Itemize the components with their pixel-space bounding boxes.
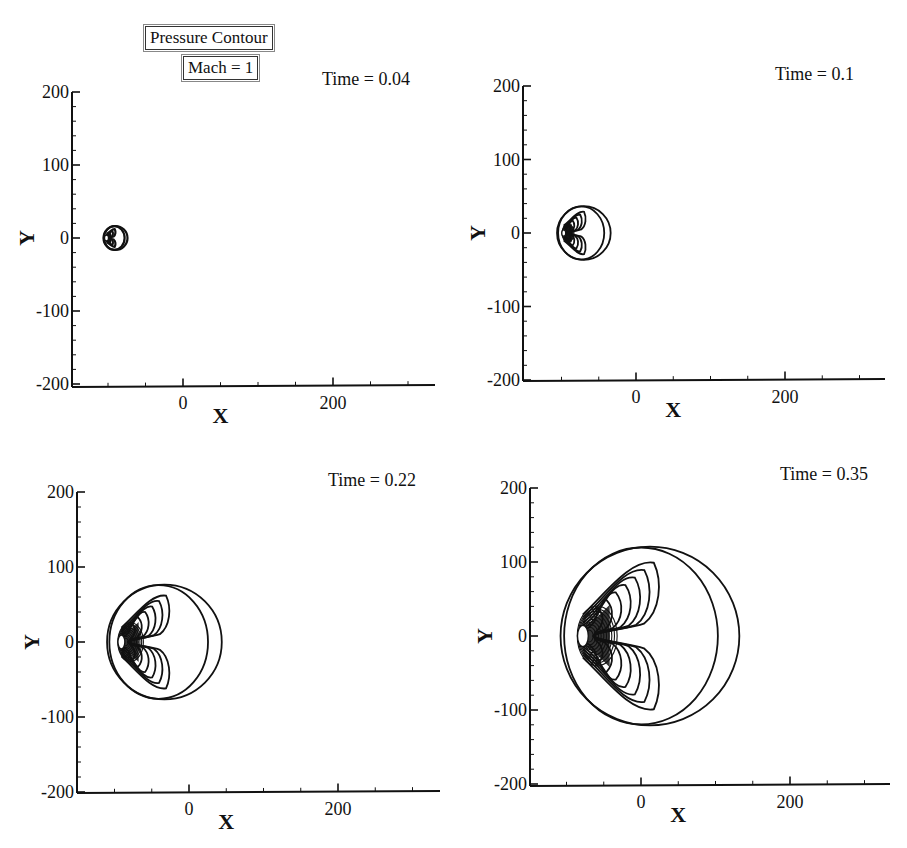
x-tick-label: 200 [777,792,804,812]
y-tick-label: 200 [493,76,520,96]
y-tick-label: 100 [500,552,527,572]
y-tick-label: 0 [60,228,69,248]
x-axis-line [77,791,440,793]
time-annotation: Time = 0.04 [322,69,410,89]
y-tick-label: 100 [47,557,74,577]
y-axis-title: Y [19,634,44,650]
y-tick-label: 100 [42,155,69,175]
x-tick-label: 0 [179,393,188,413]
time-annotation: Time = 0.35 [780,464,868,484]
y-tick-label: -200 [36,374,69,394]
x-axis-title: X [213,403,229,428]
y-tick-label: 100 [493,150,520,170]
panel-4: -200-10001002000200XYTime = 0.35 [472,464,890,827]
x-tick-label: 200 [772,387,799,407]
y-tick-label: -100 [36,301,69,321]
dense-contour-region [562,224,574,243]
dense-contour-region [105,234,112,242]
x-axis-title: X [670,802,686,827]
y-tick-label: 0 [65,632,74,652]
y-axis-title: Y [465,225,490,241]
x-axis-line [530,784,890,786]
panel-3: -200-10001002000200XYTime = 0.22 [19,470,440,834]
x-tick-label: 200 [325,799,352,819]
x-axis-title: X [218,809,234,834]
x-tick-label: 0 [632,387,641,407]
y-tick-label: 0 [518,626,527,646]
y-tick-label: -100 [41,707,74,727]
x-tick-label: 0 [185,799,194,819]
x-axis-line [72,385,435,387]
y-tick-label: -200 [494,774,527,794]
y-tick-label: 200 [500,478,527,498]
panel-1: -200-10001002000200XYTime = 0.04 [14,69,435,428]
x-tick-label: 200 [320,393,347,413]
y-axis-title: Y [472,628,497,644]
y-tick-label: 0 [511,223,520,243]
y-tick-label: -200 [487,370,520,390]
time-annotation: Time = 0.1 [775,64,854,84]
y-axis-title: Y [14,230,39,246]
panel-2: -200-10001002000200XYTime = 0.1 [465,64,885,422]
x-axis-line [523,379,885,381]
y-tick-label: -200 [41,782,74,802]
x-axis-title: X [665,397,681,422]
y-tick-label: -100 [487,297,520,317]
y-tick-label: -100 [494,700,527,720]
y-tick-label: 200 [42,82,69,102]
time-annotation: Time = 0.22 [328,470,416,490]
dense-contour-region [118,622,144,662]
y-tick-label: 200 [47,482,74,502]
x-tick-label: 0 [637,792,646,812]
pressure-contour-figure: Pressure Contour Mach = 1 -200-100010020… [0,0,907,848]
contour-plots: -200-10001002000200XYTime = 0.04-200-100… [0,0,907,848]
dense-contour-region [577,605,617,668]
